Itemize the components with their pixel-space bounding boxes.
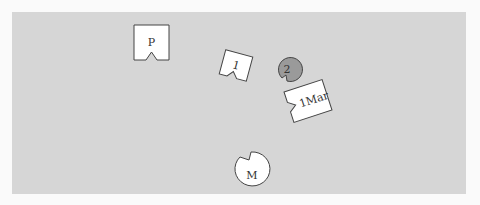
piece-2[interactable]: 2 bbox=[274, 56, 300, 82]
piece-label: 2 bbox=[274, 56, 300, 82]
piece-label: P bbox=[133, 24, 170, 61]
piece-m[interactable]: M bbox=[233, 151, 271, 187]
piece-label: M bbox=[233, 151, 271, 193]
piece-p[interactable]: P bbox=[133, 24, 170, 61]
